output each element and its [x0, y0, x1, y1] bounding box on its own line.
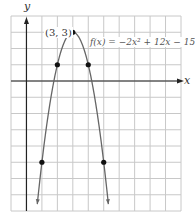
parabola-graph	[0, 0, 195, 220]
x-axis-label: x	[184, 74, 190, 87]
function-label: f(x) = −2x² + 12x − 15	[89, 37, 195, 47]
y-axis-label: y	[24, 0, 30, 13]
vertex-label: (3, 3)	[44, 27, 73, 38]
